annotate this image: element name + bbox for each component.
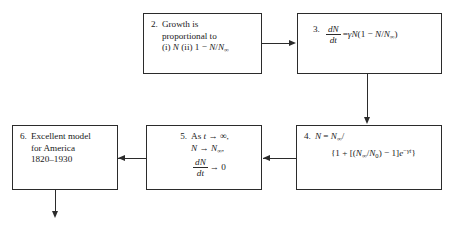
node-3-open: (1 − (358, 29, 375, 39)
flow-node-5: 5. As t → ∞, N → N∞, dNdt→ 0 (146, 125, 262, 190)
node-3-derivative-fraction: dNdt (326, 24, 341, 45)
node-4-equals: = (321, 131, 331, 141)
node-2-line-3: (i) N (ii) 1 − N/N∞ (162, 42, 255, 56)
arrow-6-out-head (52, 211, 58, 218)
node-5-content: 5. As t → ∞, N → N∞, dNdt→ 0 (154, 131, 255, 178)
arrow-6-out-line (55, 190, 56, 212)
node-4-l2-open: {1 + [( (331, 148, 356, 158)
node-4-l2-close: } (411, 148, 415, 158)
node-2-line-2: proportional to (162, 31, 255, 43)
flow-chart-diagram: 2. Growth is proportional to (i) N (ii) … (0, 0, 452, 225)
flow-node-4: 4. N = N∞/ {1 + [(N∞/N0) − 1]e−γt} (296, 125, 442, 190)
node-4-line-2: {1 + [(N∞/N0) − 1]e−γt} (315, 145, 435, 162)
node-5-comma: , (222, 143, 224, 153)
arrow-3-to-4-head (364, 117, 370, 124)
flow-node-6: 6. Excellent model for America 1820–1930 (12, 125, 118, 190)
node-5-derivative-fraction: dNdt (193, 157, 208, 178)
flow-node-2: 2. Growth is proportional to (i) N (ii) … (143, 13, 262, 74)
node-4-l2-mid: ) − 1] (379, 148, 400, 158)
node-5-l2-arrow: → (197, 143, 211, 153)
node-2-number: 2. (151, 19, 162, 31)
node-3-equation: dNdt=γN(1 − N/N∞) (324, 24, 435, 45)
node-4-slash: / (342, 131, 345, 141)
node-3-frac-numerator: dN (326, 24, 341, 35)
arrow-2-to-3-line (262, 43, 290, 44)
node-6-line-3-years: 1820–1930 (31, 154, 111, 166)
node-2-l3-mid: (ii) 1 − (179, 42, 209, 52)
node-5-frac-denominator: dt (193, 168, 208, 178)
node-2-l3-subscript-infinity: ∞ (224, 46, 229, 53)
arrow-3-to-4-line (367, 74, 368, 118)
node-2-l3-prefix: (i) (162, 42, 173, 52)
node-5-number: 5. (180, 131, 191, 143)
node-3-frac-denominator: dt (326, 35, 341, 45)
node-6-line-1: Excellent model (31, 131, 111, 143)
arrow-2-to-3-head (289, 40, 296, 46)
node-5-line-3: dNdt→ 0 (191, 157, 229, 178)
node-3-number: 3. (313, 24, 324, 36)
node-3-close: ) (395, 29, 398, 39)
node-5-line-1: As t → ∞, (191, 131, 229, 143)
node-4-line-1: N = N∞/ (315, 131, 435, 145)
node-4-number: 4. (304, 131, 315, 143)
node-2-line-1: Growth is (162, 19, 255, 31)
node-5-l3-arrow-zero: → 0 (210, 162, 226, 172)
node-5-line-2: N → N∞, (191, 143, 229, 157)
arrow-4-to-5-head (263, 155, 270, 161)
node-5-l1-arrow: → ∞, (206, 131, 229, 141)
flow-node-3: 3. dNdt=γN(1 − N/N∞) (297, 13, 442, 74)
node-6-line-2: for America (31, 143, 111, 155)
node-5-as: As (191, 131, 204, 141)
node-5-frac-numerator: dN (193, 157, 208, 168)
arrow-5-to-6-head (118, 155, 125, 161)
node-6-number: 6. (20, 131, 31, 143)
node-5-line-1-wrap: 5. As t → ∞, N → N∞, dNdt→ 0 (180, 131, 229, 178)
